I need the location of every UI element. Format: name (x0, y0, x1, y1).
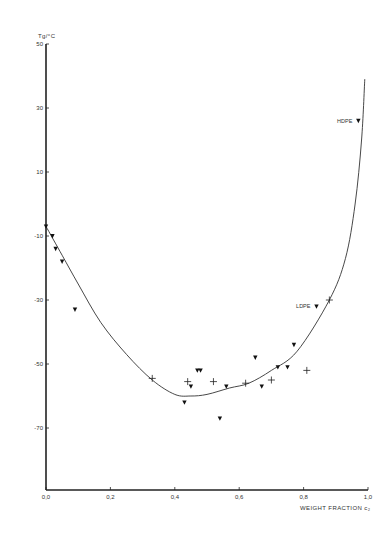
annotation-hdpe: HDPE (337, 118, 353, 124)
triangle-marker (198, 368, 202, 372)
annotations: HDPELDPE (296, 118, 353, 310)
triangle-marker (356, 119, 360, 123)
x-tick-label: 0,6 (235, 494, 244, 500)
axes: 503010-10-30-50-700,00,20,40,60,81,0Tg/°… (34, 33, 373, 511)
x-tick-label: 1,0 (364, 494, 373, 500)
y-axis-title: Tg/°C (38, 33, 56, 39)
x-tick-label: 0,0 (42, 494, 51, 500)
triangle-marker (44, 224, 48, 228)
y-tick-label: -30 (34, 297, 43, 303)
tg-vs-weight-fraction-chart: 503010-10-30-50-700,00,20,40,60,81,0Tg/°… (0, 0, 391, 536)
triangle-marker (260, 384, 264, 388)
y-tick-label: 30 (36, 105, 43, 111)
triangle-marker (189, 384, 193, 388)
triangle-marker (53, 247, 57, 251)
y-tick-label: -10 (34, 233, 43, 239)
x-tick-label: 0,4 (171, 494, 180, 500)
triangle-marker (182, 400, 186, 404)
triangle-marker (60, 260, 64, 264)
fit-curve (46, 79, 365, 396)
y-tick-label: 50 (36, 41, 43, 47)
x-tick-label: 0,8 (299, 494, 308, 500)
triangle-marker (253, 356, 257, 360)
triangle-marker (314, 304, 318, 308)
triangle-marker (218, 416, 222, 420)
triangle-marker (50, 234, 54, 238)
triangle-marker (73, 308, 77, 312)
data-markers (44, 119, 361, 421)
annotation-ldpe: LDPE (296, 303, 311, 309)
fit-curve-path (46, 79, 365, 396)
triangle-marker (292, 343, 296, 347)
y-tick-label: -50 (34, 361, 43, 367)
y-tick-label: -70 (34, 425, 43, 431)
x-tick-label: 0,2 (106, 494, 115, 500)
x-axis-title: WEIGHT FRACTION c₂ (300, 505, 371, 511)
triangle-marker (285, 365, 289, 369)
y-tick-label: 10 (36, 169, 43, 175)
